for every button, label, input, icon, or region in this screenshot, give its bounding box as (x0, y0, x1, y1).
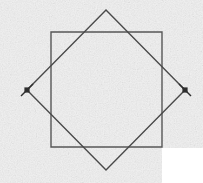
vertex-marker-right-dot (182, 87, 187, 92)
bottom-right-white-region (162, 148, 203, 183)
vertex-marker-left-dot (24, 87, 29, 92)
geometry-figure-canvas (0, 0, 203, 183)
figure-root (0, 0, 203, 183)
